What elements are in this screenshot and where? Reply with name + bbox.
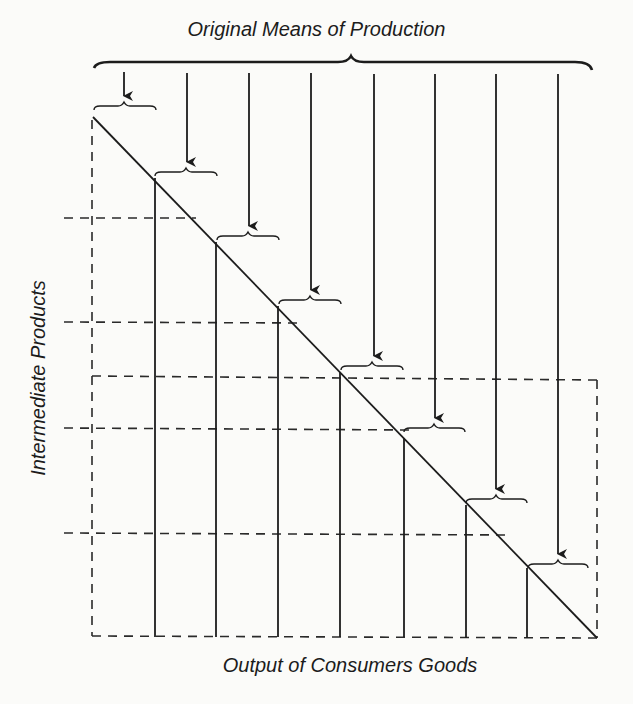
top-brace xyxy=(94,56,592,70)
arrow-icons xyxy=(124,72,558,554)
dashed-guides xyxy=(64,120,597,638)
stage-verticals xyxy=(155,178,527,638)
diagonal-line xyxy=(93,117,597,638)
production-structure-diagram xyxy=(0,0,633,704)
stage-braces xyxy=(94,102,588,568)
